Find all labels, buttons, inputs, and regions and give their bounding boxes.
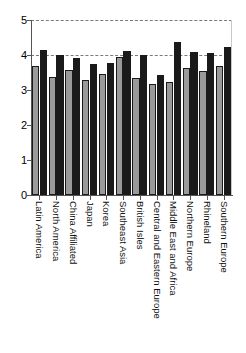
bar (49, 77, 56, 195)
bar (90, 64, 97, 195)
x-axis-label: Northern Europe (185, 201, 195, 271)
bar (56, 55, 63, 195)
bar (207, 53, 214, 195)
x-axis-label: Japan (85, 201, 95, 227)
x-tick-mark (173, 195, 174, 200)
y-axis-line (31, 20, 32, 195)
y-tick-label: 5 (21, 15, 27, 26)
y-tick-mark (27, 20, 32, 21)
x-tick-mark (90, 195, 91, 200)
bar (73, 58, 80, 195)
bar (99, 74, 106, 195)
x-tick-mark (157, 195, 158, 200)
y-tick-label: 2 (21, 120, 27, 131)
x-axis-label: Southeast Asia (118, 201, 128, 264)
bar (140, 55, 147, 195)
bar-chart: 012345 Latin AmericaNorth AmericaChina A… (0, 0, 246, 353)
x-axis-label: Korea (102, 201, 112, 226)
bar (65, 70, 72, 195)
bar (107, 63, 114, 195)
bar (224, 47, 231, 195)
bar (190, 52, 197, 196)
bar (132, 78, 139, 195)
bar (183, 68, 190, 195)
bar (40, 50, 47, 195)
y-tick-mark (27, 195, 32, 196)
bar (216, 66, 223, 196)
y-tick-mark (27, 55, 32, 56)
x-axis-label: Middle East and Africa (169, 201, 179, 296)
bar (174, 42, 181, 195)
plot-area (31, 20, 232, 195)
x-axis-label: Southern Europe (219, 201, 229, 273)
bar (82, 80, 89, 195)
y-tick-mark (27, 90, 32, 91)
x-tick-mark (56, 195, 57, 200)
y-tick-label: 1 (21, 155, 27, 166)
x-axis-label: Latin America (35, 201, 45, 259)
x-tick-mark (140, 195, 141, 200)
x-axis-label: British Isles (135, 201, 145, 250)
y-tick-label: 0 (21, 190, 27, 201)
y-tick-label: 3 (21, 85, 27, 96)
y-tick-mark (27, 160, 32, 161)
bar (116, 57, 123, 195)
x-axis-label: North America (51, 201, 61, 261)
bar (149, 84, 156, 195)
x-axis-label: China Affiliated (68, 201, 78, 264)
x-tick-mark (123, 195, 124, 200)
bar (166, 82, 173, 195)
bar (123, 51, 130, 195)
x-axis-labels: Latin AmericaNorth AmericaChina Affiliat… (31, 201, 232, 351)
x-tick-mark (106, 195, 107, 200)
x-axis-label: Central and Eastern Europe (152, 201, 162, 319)
bar (32, 66, 39, 196)
x-axis-label: Rhineland (202, 201, 212, 244)
x-tick-mark (207, 195, 208, 200)
x-axis-line (31, 195, 233, 196)
x-tick-mark (224, 195, 225, 200)
x-tick-mark (190, 195, 191, 200)
x-tick-mark (39, 195, 40, 200)
bar (199, 71, 206, 195)
y-tick-label: 4 (21, 50, 27, 61)
y-tick-mark (27, 125, 32, 126)
x-tick-mark (73, 195, 74, 200)
bar (157, 75, 164, 195)
